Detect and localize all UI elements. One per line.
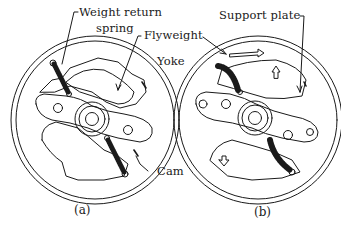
leader-support-plate-arrow	[297, 86, 302, 92]
label-yoke: Yoke	[157, 56, 185, 68]
pin-mid-b	[222, 100, 231, 109]
pin-right-b	[284, 131, 293, 140]
cam-hub-outer-a	[75, 102, 109, 136]
housing-outer-ring-a	[11, 36, 179, 204]
housing-inner-ring-b	[179, 41, 337, 199]
caption-panel-b: (b)	[254, 205, 271, 219]
panel-b-drawing	[174, 36, 341, 204]
yoke-plate-a	[36, 94, 153, 142]
pin-right-a	[124, 126, 133, 135]
label-flyweight: Flyweight	[144, 30, 203, 42]
cam-hub-inner-a	[86, 113, 99, 126]
cam-hub-inner-b	[249, 112, 262, 125]
panel-a-drawing	[11, 36, 179, 204]
label-weight-return-spring-line2: spring	[96, 23, 134, 35]
weight-return-spring-lower-b	[270, 140, 295, 175]
rotation-arrow-top-b	[230, 49, 264, 57]
pin-left-a	[54, 104, 63, 113]
pin-left-b	[199, 100, 207, 108]
pin-far-right-b	[307, 129, 314, 136]
outward-arrow-upper-b	[272, 66, 280, 78]
caption-panel-a: (a)	[74, 203, 91, 217]
cam-hub-mid-a	[79, 106, 105, 132]
label-support-plate: Support plate	[219, 10, 300, 22]
label-weight-return-spring-line1: Weight return	[79, 7, 162, 19]
flyweight-lower-b	[210, 140, 300, 180]
cam-hub-mid-b	[242, 105, 268, 131]
weight-return-spring-lower-a	[105, 136, 129, 178]
leader-flyweight	[118, 36, 141, 90]
outward-arrow-lower-b	[219, 156, 229, 166]
label-cam: Cam	[157, 166, 184, 178]
leader-yoke	[203, 37, 226, 54]
weight-return-spring-upper-a	[50, 60, 72, 97]
housing-inner-ring-a	[16, 41, 174, 199]
leader-cam	[136, 156, 148, 171]
